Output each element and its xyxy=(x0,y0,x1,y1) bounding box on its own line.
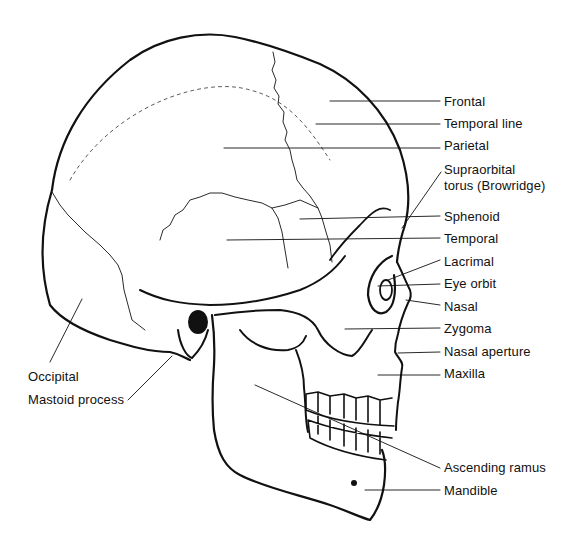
browridge-shading xyxy=(330,208,390,260)
face-profile xyxy=(395,262,411,430)
label-zygoma: Zygoma xyxy=(444,321,492,336)
ear-canal xyxy=(189,311,207,333)
lambdoid-suture xyxy=(52,192,145,330)
lacrimal-fossa xyxy=(380,280,392,300)
label-mandible: Mandible xyxy=(444,483,498,498)
label-mastoid-process: Mastoid process xyxy=(28,392,124,407)
label-nasal-aperture: Nasal aperture xyxy=(444,344,531,359)
sphenoid-suture xyxy=(272,200,318,208)
label-nasal: Nasal xyxy=(444,299,478,314)
label-ascending-ramus: Ascending ramus xyxy=(444,460,546,475)
occipital-outline xyxy=(43,190,190,360)
label-supraorbital-line2: torus (Browridge) xyxy=(444,178,545,193)
label-sphenoid: Sphenoid xyxy=(444,209,500,224)
label-frontal: Frontal xyxy=(444,94,485,109)
mastoid-outline xyxy=(178,330,208,358)
label-maxilla: Maxilla xyxy=(444,366,485,381)
temporal-line-mark xyxy=(70,87,330,180)
skull-diagram: Frontal Temporal line Parietal Supraorbi… xyxy=(0,0,577,555)
ramus-front xyxy=(296,350,308,432)
coronal-suture xyxy=(272,52,332,262)
label-supraorbital-line1: Supraorbital xyxy=(444,162,515,177)
label-occipital: Occipital xyxy=(28,369,79,384)
label-lacrimal: Lacrimal xyxy=(444,254,494,269)
mental-foramen xyxy=(351,480,357,486)
label-temporal-line: Temporal line xyxy=(444,116,523,131)
upper-teeth xyxy=(306,392,394,426)
label-eye-orbit: Eye orbit xyxy=(444,276,496,291)
temporal-fossa-lower xyxy=(140,256,345,305)
label-temporal: Temporal xyxy=(444,231,498,246)
label-parietal: Parietal xyxy=(444,138,489,153)
zygomatic-lower xyxy=(240,330,306,350)
squamosal-suture xyxy=(160,193,288,268)
